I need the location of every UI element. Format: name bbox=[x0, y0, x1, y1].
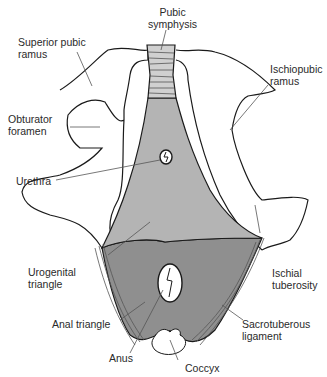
label-coccyx: Coccyx bbox=[185, 362, 219, 374]
label-anal-triangle: Anal triangle bbox=[52, 318, 110, 330]
anus-opening bbox=[158, 264, 182, 302]
label-anus: Anus bbox=[109, 352, 133, 364]
label-ischiopubic-ramus: Ischiopubic ramus bbox=[270, 63, 323, 87]
label-urethra: Urethra bbox=[16, 175, 51, 187]
label-ischial-tuberosity: Ischial tuberosity bbox=[272, 267, 318, 291]
pubic-symphysis-shape bbox=[147, 45, 176, 98]
urethra-opening bbox=[160, 150, 172, 164]
label-superior-pubic-ramus: Superior pubic ramus bbox=[18, 36, 86, 60]
label-pubic-symphysis: Pubic symphysis bbox=[148, 6, 197, 30]
coccyx-shape bbox=[152, 329, 186, 355]
label-obturator-foramen: Obturator foramen bbox=[8, 113, 52, 137]
label-urogenital-triangle: Urogenital triangle bbox=[28, 266, 76, 290]
label-sacrotuberous-ligament: Sacrotuberous ligament bbox=[242, 318, 310, 342]
anal-triangle-region bbox=[102, 238, 262, 342]
